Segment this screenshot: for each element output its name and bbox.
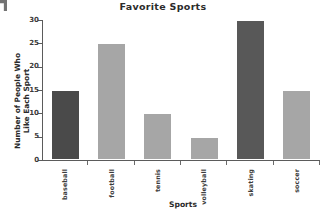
y-axis-title: Number of People Who Like Each Sport: [11, 27, 33, 175]
y-tick-label: 20: [29, 62, 39, 70]
bar-chart-figure: Favorite Sports Number of People Who Lik…: [0, 0, 326, 212]
x-tick-label-text: football: [108, 169, 116, 198]
plot-area: 051015202530baseballfootballtennisvolley…: [42, 20, 320, 161]
bar-volleyball: [190, 137, 219, 160]
x-tick-mark: [87, 161, 88, 165]
x-tick-mark: [226, 161, 227, 165]
y-tick-label: 30: [29, 16, 39, 24]
x-tick-mark: [273, 161, 274, 165]
x-tick-mark: [180, 161, 181, 165]
x-tick-label-text: baseball: [61, 169, 69, 200]
bar-baseball: [51, 90, 80, 160]
y-tick-label: 10: [29, 109, 39, 117]
y-tick-label: 5: [34, 132, 39, 140]
bar-football: [97, 43, 126, 160]
x-tick-label-text: tennis: [154, 169, 162, 192]
x-tick-label-text: skating: [247, 169, 255, 196]
x-axis-line: [42, 160, 320, 161]
x-tick-mark: [134, 161, 135, 165]
bar-skating: [236, 20, 265, 160]
x-axis-title: Sports: [40, 200, 326, 209]
x-tick-label-text: soccer: [293, 169, 301, 193]
bar-tennis: [143, 113, 172, 160]
y-tick-label: 15: [29, 86, 39, 94]
y-tick-label: 25: [29, 39, 39, 47]
bar-soccer: [282, 90, 311, 160]
x-tick-mark: [319, 161, 320, 165]
y-tick-label: 0: [34, 156, 39, 164]
chart-title: Favorite Sports: [0, 1, 326, 12]
